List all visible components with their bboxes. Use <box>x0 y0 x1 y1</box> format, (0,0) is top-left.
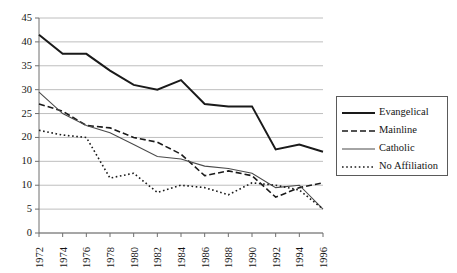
legend-label: No Affiliation <box>379 158 438 173</box>
x-axis-tick-label: 1986 <box>199 237 210 273</box>
y-axis-tick-label: 0 <box>6 227 32 238</box>
legend-item-evangelical[interactable]: Evangelical <box>342 103 446 121</box>
x-axis-tick-label: 1984 <box>176 237 187 273</box>
x-axis-tick: 1972 <box>32 238 46 273</box>
y-axis-tick-label: 40 <box>6 36 32 47</box>
x-axis-tick: 1996 <box>316 238 330 273</box>
y-axis-tick-label: 35 <box>6 60 32 71</box>
x-axis-tick: 1990 <box>245 238 259 273</box>
y-axis-tick-label: 45 <box>6 12 32 23</box>
series-line-catholic <box>39 92 323 209</box>
x-axis-tick-label: 1988 <box>223 237 234 273</box>
legend-label: Evangelical <box>379 104 429 119</box>
x-axis-tick: 1980 <box>127 238 141 273</box>
x-axis-tick: 1992 <box>269 238 283 273</box>
legend-label: Catholic <box>379 140 415 155</box>
legend-label: Mainline <box>379 122 417 137</box>
x-axis-tick-label: 1978 <box>105 237 116 273</box>
y-axis-tick-label: 10 <box>6 179 32 190</box>
x-axis-tick: 1984 <box>174 238 188 273</box>
y-axis-tick-label: 5 <box>6 203 32 214</box>
x-axis-tick-label: 1976 <box>81 237 92 273</box>
x-axis-tick-label: 1980 <box>128 237 139 273</box>
x-axis-tick-label: 1992 <box>270 237 281 273</box>
x-axis-tick-label: 1996 <box>318 237 329 273</box>
legend-swatch-icon <box>342 147 375 150</box>
x-axis-tick: 1982 <box>150 238 164 273</box>
x-axis-tick: 1994 <box>292 238 306 273</box>
x-axis-tick: 1976 <box>79 238 93 273</box>
x-axis-tick: 1978 <box>103 238 117 273</box>
x-axis-tick-label: 1982 <box>152 237 163 273</box>
x-axis-tick-label: 1974 <box>57 237 68 273</box>
line-chart: 051010202530354045 197219741976197819801… <box>0 0 457 273</box>
y-axis-tick-label: 30 <box>6 84 32 95</box>
series-group <box>39 35 323 209</box>
y-axis-ticks <box>35 18 39 233</box>
x-axis-tick-label: 1994 <box>294 237 305 273</box>
series-line-mainline <box>39 104 323 197</box>
legend-item-mainline[interactable]: Mainline <box>342 121 446 139</box>
legend-item-catholic[interactable]: Catholic <box>342 139 446 157</box>
x-axis-tick: 1974 <box>56 238 70 273</box>
y-axis-tick-label: 25 <box>6 108 32 119</box>
x-axis-tick: 1988 <box>221 238 235 273</box>
x-axis-tick-label: 1972 <box>34 237 45 273</box>
y-axis-tick-label: 20 <box>6 131 32 142</box>
y-axis-tick-label: 10 <box>6 155 32 166</box>
x-axis-tick-label: 1990 <box>247 237 258 273</box>
legend-swatch-icon <box>342 111 375 114</box>
legend-swatch-icon <box>342 165 375 168</box>
x-axis-tick: 1986 <box>198 238 212 273</box>
legend-swatch-icon <box>342 129 375 132</box>
series-line-evangelical <box>39 35 323 152</box>
legend-item-no-affiliation[interactable]: No Affiliation <box>342 157 446 175</box>
series-line-no-affiliation <box>39 130 323 209</box>
chart-legend: EvangelicalMainlineCatholicNo Affiliatio… <box>336 96 448 176</box>
gridlines <box>39 18 323 233</box>
